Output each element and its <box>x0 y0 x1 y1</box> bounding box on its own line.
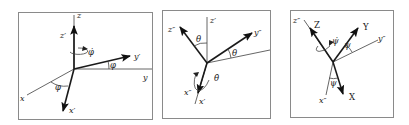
panel-rotation-theta: z′ z″ θ y″ θ x′ x″ θ̇ <box>163 11 271 119</box>
x-axis <box>27 69 74 95</box>
phi-angle-label: φ <box>110 60 116 70</box>
z-prime-label: z′ <box>209 16 216 25</box>
rotation-arrowhead-icon <box>193 72 199 77</box>
panel-frame <box>291 11 394 118</box>
angle-arc <box>228 49 231 58</box>
panel-frame <box>163 11 271 119</box>
x-axis-label: x <box>20 94 25 103</box>
Z-label: Z <box>314 20 320 30</box>
phi-angle-label-2: φ <box>55 82 61 92</box>
angle-arc <box>108 61 109 69</box>
psi-angle-label: ψ <box>344 40 351 50</box>
z-double-prime-label: z″ <box>167 25 175 34</box>
psi-angle-label-2: ψ <box>330 78 337 88</box>
euler-rotation-diagram: z z′ φ̇ y y′ φ x x′ φ z′ z″ θ <box>0 0 409 125</box>
panel-rotation-psi: z″ Z ψ̇ y″ Y ψ x″ X ψ <box>291 11 394 118</box>
theta-angle-label: θ <box>196 34 201 44</box>
z-double-prime-vector <box>180 27 207 63</box>
Y-label: Y <box>362 22 369 32</box>
phi-dot-label: φ̇ <box>88 47 94 57</box>
panel-rotation-phi: z z′ φ̇ y y′ φ x x′ φ <box>19 11 153 120</box>
theta-angle-label-2: θ <box>232 48 237 58</box>
x-prime-vector <box>63 69 74 111</box>
z-axis-label: z <box>76 11 82 20</box>
X-label: X <box>349 92 356 102</box>
y-prime-label: y′ <box>133 52 141 61</box>
x-prime-label: x′ <box>199 97 206 106</box>
z-prime-label: z′ <box>59 31 66 40</box>
psi-dot-label: ψ̇ <box>332 36 339 46</box>
z-double-prime-label: z″ <box>292 16 300 25</box>
y-prime-vector <box>74 56 130 69</box>
theta-dot-label: θ̇ <box>214 73 219 83</box>
x-double-prime-label: x″ <box>319 96 327 105</box>
x-double-prime-label: x″ <box>184 88 192 97</box>
y-axis-label: y <box>142 73 148 82</box>
x-double-prime-vector <box>198 63 207 93</box>
y-double-prime-axis <box>333 40 378 62</box>
y-double-prime-label: y″ <box>253 28 262 37</box>
x-prime-label: x′ <box>69 106 76 115</box>
y-double-prime-label: y″ <box>377 34 386 43</box>
